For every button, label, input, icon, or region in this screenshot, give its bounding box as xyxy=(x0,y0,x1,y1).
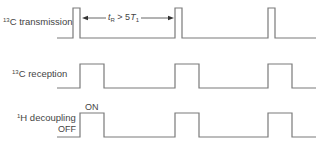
arrowhead-right-icon xyxy=(168,16,174,20)
arrowhead-left-icon xyxy=(82,16,88,20)
waveform-c13-reception xyxy=(57,64,316,88)
nmr-pulse-timing-diagram: 13C transmission 13C reception 1H decoup… xyxy=(0,0,322,146)
waveform-h1-decoupling xyxy=(57,113,316,137)
row-label-c13-reception: 13C reception xyxy=(12,69,67,79)
row-label-text: C reception xyxy=(19,68,68,79)
row-label-c13-transmission: 13C transmission xyxy=(3,17,73,27)
waveform-c13-transmission xyxy=(57,8,316,38)
interval-label: tR > 5T1 xyxy=(106,13,141,23)
row-label-text: H decoupling xyxy=(20,112,75,123)
relation-text: > 5 xyxy=(115,12,130,22)
isotope-mass: 13 xyxy=(3,17,10,23)
state-label-on: ON xyxy=(85,103,99,112)
row-label-h1-decoupling: 1H decoupling xyxy=(17,113,76,123)
isotope-mass: 13 xyxy=(12,69,19,75)
state-label-off: OFF xyxy=(58,125,76,134)
row-label-text: C transmission xyxy=(10,16,73,27)
T-subscript: 1 xyxy=(136,17,139,23)
